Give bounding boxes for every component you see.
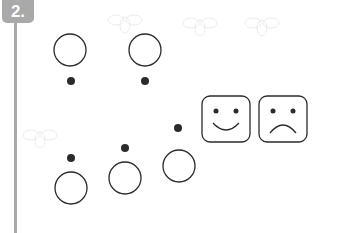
sad-face-icon[interactable] [259, 96, 307, 142]
dot-shape [141, 77, 149, 85]
bottom-pair-1 [55, 154, 87, 204]
circle-shape [54, 34, 86, 66]
dot-shape [174, 124, 182, 132]
dot-shape [67, 154, 75, 162]
dot-shape [67, 77, 75, 85]
circle-shape [129, 34, 161, 66]
exercise-illustration [0, 0, 340, 233]
smiley-face-icon[interactable] [202, 96, 250, 142]
bottom-pair-3 [163, 124, 195, 182]
circle-shape [55, 172, 87, 204]
bottom-pair-2 [109, 144, 141, 194]
top-pair-2 [129, 34, 161, 85]
circle-shape [163, 150, 195, 182]
top-pair-1 [54, 34, 86, 85]
dot-shape [121, 144, 129, 152]
circle-shape [109, 162, 141, 194]
